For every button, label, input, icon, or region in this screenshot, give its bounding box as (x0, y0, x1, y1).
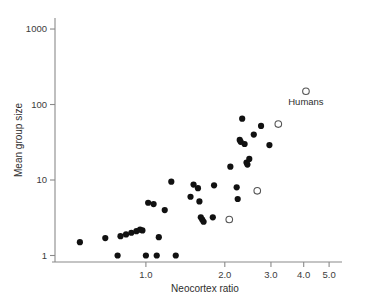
y-tick-label: 10 (36, 174, 47, 185)
data-point-filled (242, 141, 248, 147)
data-point-filled (258, 123, 264, 129)
data-point-filled (196, 198, 202, 204)
x-tick-label: 1.0 (139, 269, 152, 280)
data-point-filled (115, 252, 121, 258)
data-point-filled (227, 164, 233, 170)
data-point-filled (239, 116, 245, 122)
data-point-filled (143, 252, 149, 258)
data-point-filled (173, 252, 179, 258)
y-tick-label: 100 (31, 99, 47, 110)
data-point-filled (77, 239, 83, 245)
x-axis-title: Neocortex ratio (171, 283, 239, 294)
x-tick-label: 2.0 (218, 269, 231, 280)
x-tick-label: 5.0 (322, 269, 335, 280)
data-point-open (303, 88, 310, 95)
x-axis-ticks: 1.02.03.04.05.0 (139, 262, 335, 280)
data-point-filled (235, 196, 241, 202)
data-point-filled (139, 227, 145, 233)
data-point-filled (200, 219, 206, 225)
chart-canvas: 1101001000 1.02.03.04.05.0 Humans Neocor… (0, 0, 370, 308)
data-points-open (226, 88, 309, 223)
data-point-filled (266, 142, 272, 148)
data-point-filled (187, 194, 193, 200)
x-tick-label: 4.0 (297, 269, 310, 280)
scatter-chart-figure: 1101001000 1.02.03.04.05.0 Humans Neocor… (0, 0, 370, 308)
data-point-open (226, 216, 233, 223)
point-label-humans: Humans (288, 96, 324, 107)
data-point-filled (156, 234, 162, 240)
data-point-filled (154, 252, 160, 258)
data-point-filled (151, 201, 157, 207)
x-tick-label: 3.0 (264, 269, 277, 280)
data-point-filled (246, 156, 252, 162)
data-point-filled (195, 185, 201, 191)
y-axis-title: Mean group size (13, 103, 24, 177)
y-axis-ticks: 1101001000 (26, 23, 55, 260)
data-point-filled (168, 179, 174, 185)
data-point-filled (117, 233, 123, 239)
data-point-filled (244, 162, 250, 168)
y-tick-label: 1 (42, 250, 47, 261)
data-points-filled (77, 116, 273, 259)
data-point-filled (251, 131, 257, 137)
data-point-filled (123, 231, 129, 237)
data-point-open (275, 121, 282, 128)
data-point-filled (102, 235, 108, 241)
chart-annotations: Humans (288, 96, 324, 107)
data-point-filled (162, 207, 168, 213)
data-point-open (254, 187, 261, 194)
data-point-filled (234, 184, 240, 190)
y-tick-label: 1000 (26, 23, 47, 34)
data-point-filled (210, 214, 216, 220)
data-point-filled (145, 200, 151, 206)
data-point-filled (211, 182, 217, 188)
